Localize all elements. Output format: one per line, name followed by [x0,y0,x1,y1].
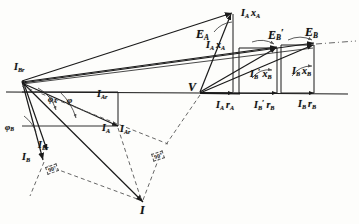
angle-phi: φ [67,96,72,105]
label-IB-left: IBr [14,62,24,73]
label-IBr: IBr [38,140,48,151]
label-IBp-rB: IB′ rB [254,99,274,111]
label-IB-rB: IB rB [298,99,316,110]
label-IA: IA [102,123,110,134]
label-IA-rA: IA rA [216,100,234,111]
arc-phi-B [24,116,36,132]
label-E-B: EB [305,26,318,39]
phasor-diagram: EAEB′EBVIIA xAIA xAIB′ xBIB xBIA rAIB′ r… [0,0,359,224]
dashed-V-to-marker [165,95,200,146]
dashed-to-right-marker [22,86,168,144]
label-IB-xB: IB xB [292,66,311,77]
label-V: V [188,81,196,93]
label-IA-xA-top: IA xA [241,8,260,19]
label-IBp-xB: IB′ xB [250,68,272,80]
angle-phi-A: φA [48,95,57,105]
label-IB: IB [22,152,30,163]
label-IA-xA-mid: IA xA [206,40,225,51]
label-IAr: IAr [97,89,107,100]
label-IAr2: IAr [120,124,130,135]
arc-top-Ea [214,22,232,32]
dashed-left-marker-b [48,166,140,200]
label-E-B-prime: EB′ [268,28,284,42]
dashed-right-extension [316,41,356,44]
dashed-left-marker-a [30,162,44,196]
angle-phi-B: φB [5,123,14,133]
label-I: I [140,204,145,216]
vector-V-to-Ea [200,14,231,92]
